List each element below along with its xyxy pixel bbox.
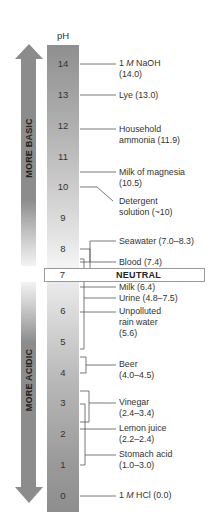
label-milk: Milk (6.4) — [119, 282, 155, 293]
label-blood: Blood (7.4) — [119, 257, 162, 268]
label-detergent: Detergent solution (~10) — [119, 196, 173, 218]
label-rain-water: Unpolluted rain water (5.6) — [119, 306, 161, 339]
label-urine: Urine (4.8–7.5) — [119, 293, 178, 304]
connector-lines — [0, 0, 211, 520]
label-naoh: 1 M NaOH (14.0) — [119, 58, 161, 80]
label-stomach-acid: Stomach acid (1.0–3.0) — [119, 449, 172, 471]
label-lemon-juice: Lemon juice (2.2–2.4) — [119, 423, 166, 445]
neutral-row: 7 NEUTRAL — [44, 268, 205, 282]
label-beer: Beer (4.0–4.5) — [119, 359, 154, 381]
neutral-label: NEUTRAL — [116, 269, 161, 281]
ph-tick-7: 7 — [45, 269, 80, 281]
label-vinegar: Vinegar (2.4–3.4) — [119, 397, 154, 419]
label-ammonia: Household ammonia (11.9) — [119, 124, 180, 146]
label-hcl: 1 M HCl (0.0) — [119, 490, 171, 501]
label-seawater: Seawater (7.0–8.3) — [119, 236, 194, 247]
label-milk-of-magnesia: Milk of magnesia (10.5) — [119, 167, 185, 189]
label-lye: Lye (13.0) — [119, 90, 158, 101]
